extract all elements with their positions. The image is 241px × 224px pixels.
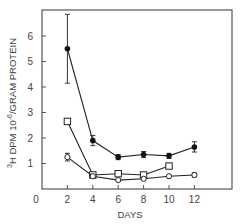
marker-open-circle	[65, 155, 70, 160]
marker-open-circle	[166, 174, 171, 179]
series-line-filled-circle	[67, 49, 194, 157]
x-tick-label: 2	[65, 194, 71, 205]
x-axis-label: DAYS	[117, 209, 142, 220]
marker-filled-circle	[166, 153, 172, 159]
series-line-open-square	[67, 121, 169, 175]
marker-open-circle	[141, 176, 146, 181]
marker-open-square	[115, 171, 121, 177]
x-tick-label: 6	[115, 194, 121, 205]
plot-frame	[42, 10, 232, 189]
marker-filled-circle	[90, 138, 96, 144]
marker-open-square	[166, 163, 172, 169]
y-tick-label: 6	[27, 31, 33, 42]
marker-open-circle	[90, 174, 95, 179]
x-tick-label: 4	[90, 194, 96, 205]
y-axis-label: 3H DPM 10-6/GRAM PROTEIN	[6, 38, 18, 168]
marker-open-circle	[192, 172, 197, 177]
y-tick-label: 2	[27, 133, 33, 144]
marker-filled-circle	[65, 46, 71, 52]
chart-container: 123456024681012DAYS3H DPM 10-6/GRAM PROT…	[0, 0, 241, 224]
x-tick-label: 0	[33, 194, 39, 205]
x-tick-label: 12	[189, 194, 201, 205]
marker-open-circle	[116, 177, 121, 182]
y-tick-label: 1	[27, 158, 33, 169]
x-tick-label: 8	[141, 194, 147, 205]
marker-filled-circle	[192, 144, 198, 150]
y-tick-label: 4	[27, 82, 33, 93]
marker-open-square	[64, 118, 70, 124]
x-tick-label: 10	[163, 194, 175, 205]
marker-filled-circle	[141, 152, 147, 158]
y-tick-label: 5	[27, 56, 33, 67]
marker-filled-circle	[115, 154, 121, 160]
line-chart: 123456024681012DAYS3H DPM 10-6/GRAM PROT…	[0, 0, 241, 224]
y-tick-label: 3	[27, 107, 33, 118]
